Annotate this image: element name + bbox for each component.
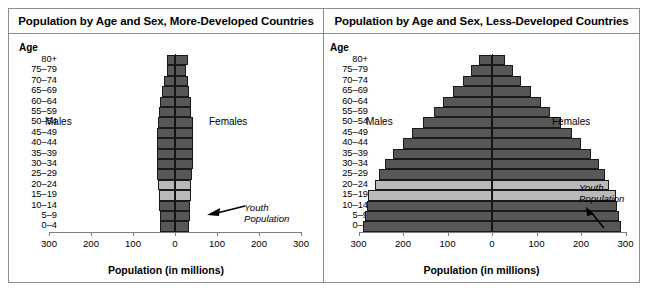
bar-male-80+ — [167, 55, 175, 65]
bar-female-10-14 — [175, 201, 190, 211]
males-label-right: Males — [366, 116, 393, 127]
youth-arrow-left — [205, 204, 247, 220]
bar-female-65-69 — [492, 86, 531, 96]
x-tick — [91, 232, 92, 236]
bar-female-5-9 — [175, 211, 190, 221]
pyramid-panels: Population by Age and Sex, More-Develope… — [8, 8, 640, 283]
bar-male-60-64 — [160, 97, 175, 107]
bar-female-50-54 — [492, 117, 561, 127]
age-label-20-24: 20–24 — [13, 179, 57, 189]
age-label-65-69: 65–69 — [13, 85, 57, 95]
bar-male-40-44 — [157, 138, 175, 148]
bar-male-25-29 — [157, 169, 175, 179]
bar-female-55-59 — [175, 107, 191, 117]
age-label-0-4: 0–4 — [324, 220, 368, 230]
age-label-75-79: 75–79 — [13, 64, 57, 74]
bar-male-65-69 — [453, 86, 492, 96]
x-tick — [133, 232, 134, 236]
bar-male-0-4 — [160, 221, 175, 231]
age-label-15-19: 15–19 — [324, 189, 368, 199]
youth-arrow-right — [582, 206, 608, 232]
x-tick — [217, 232, 218, 236]
x-tick — [359, 232, 360, 236]
bar-female-35-39 — [492, 149, 591, 159]
plot-area-less-developed: Age 80+75–7970–7465–6960–6455–5950–5445–… — [324, 34, 639, 282]
bar-male-75-79 — [471, 65, 492, 75]
x-tick — [581, 232, 582, 236]
bar-female-25-29 — [492, 169, 605, 179]
x-tick-label-200-5: 200 — [239, 238, 279, 249]
bar-male-50-54 — [423, 117, 492, 127]
bar-male-20-24 — [375, 180, 492, 190]
bar-female-45-49 — [175, 128, 193, 138]
bar-female-75-79 — [492, 65, 513, 75]
x-tick — [537, 232, 538, 236]
bar-male-15-19 — [159, 190, 175, 200]
plot-area-more-developed: Age 80+75–7970–7465–6960–6455–5950–5445–… — [9, 34, 323, 282]
bar-female-65-69 — [175, 86, 189, 96]
bar-male-65-69 — [162, 86, 175, 96]
bar-female-30-34 — [175, 159, 193, 169]
females-label-left: Females — [209, 116, 247, 127]
age-label-20-24: 20–24 — [324, 179, 368, 189]
bar-male-55-59 — [434, 107, 492, 117]
bar-male-35-39 — [157, 149, 175, 159]
bar-female-80+ — [175, 55, 188, 65]
females-label-right: Females — [552, 116, 590, 127]
bar-male-10-14 — [367, 201, 492, 211]
center-axis-line-left — [175, 54, 176, 232]
age-label-45-49: 45–49 — [324, 127, 368, 137]
bar-female-35-39 — [175, 149, 193, 159]
bar-female-55-59 — [492, 107, 550, 117]
x-axis-title-right: Population (in millions) — [324, 264, 639, 276]
bar-female-60-64 — [175, 97, 191, 107]
age-label-5-9: 5–9 — [13, 210, 57, 220]
age-label-40-44: 40–44 — [324, 137, 368, 147]
panel-title-less-developed: Population by Age and Sex, Less-Develope… — [324, 9, 639, 34]
bar-male-25-29 — [379, 169, 492, 179]
age-label-40-44: 40–44 — [13, 137, 57, 147]
age-axis-header: Age — [19, 42, 38, 53]
x-tick-label-300-0: 300 — [339, 238, 379, 249]
x-tick — [175, 232, 176, 236]
x-tick-label-0-3: 0 — [472, 238, 512, 249]
age-label-80+: 80+ — [13, 54, 57, 64]
youth-annotation-left: Youth Population — [244, 202, 289, 224]
x-tick-label-200-5: 200 — [561, 238, 601, 249]
bar-male-15-19 — [368, 190, 492, 200]
x-tick-label-0-3: 0 — [155, 238, 195, 249]
age-label-55-59: 55–59 — [13, 106, 57, 116]
age-label-5-9: 5–9 — [324, 210, 368, 220]
youth-annotation-line2: Population — [244, 213, 289, 224]
x-tick — [301, 232, 302, 236]
panel-more-developed: Population by Age and Sex, More-Develope… — [8, 8, 324, 283]
age-label-80+: 80+ — [324, 54, 368, 64]
bar-male-5-9 — [160, 211, 175, 221]
bar-male-0-4 — [363, 221, 492, 231]
age-label-25-29: 25–29 — [324, 168, 368, 178]
x-tick — [448, 232, 449, 236]
age-label-35-39: 35–39 — [13, 148, 57, 158]
x-tick-label-100-2: 100 — [428, 238, 468, 249]
bar-female-50-54 — [175, 117, 193, 127]
bar-male-35-39 — [393, 149, 492, 159]
bar-male-70-74 — [164, 76, 175, 86]
x-tick-label-200-1: 200 — [383, 238, 423, 249]
x-tick-label-100-4: 100 — [517, 238, 557, 249]
bar-female-60-64 — [492, 97, 541, 107]
x-tick — [626, 232, 627, 236]
bar-male-5-9 — [365, 211, 492, 221]
bar-female-20-24 — [175, 180, 191, 190]
age-axis-header-right: Age — [330, 42, 349, 53]
x-tick — [403, 232, 404, 236]
bar-female-15-19 — [175, 190, 191, 200]
bar-female-70-74 — [492, 76, 521, 86]
age-label-60-64: 60–64 — [13, 96, 57, 106]
bar-female-25-29 — [175, 169, 192, 179]
x-tick — [49, 232, 50, 236]
age-label-25-29: 25–29 — [13, 168, 57, 178]
panel-title-more-developed: Population by Age and Sex, More-Develope… — [9, 9, 323, 34]
bar-male-10-14 — [159, 201, 175, 211]
x-tick-label-300-6: 300 — [606, 238, 646, 249]
age-label-70-74: 70–74 — [13, 75, 57, 85]
